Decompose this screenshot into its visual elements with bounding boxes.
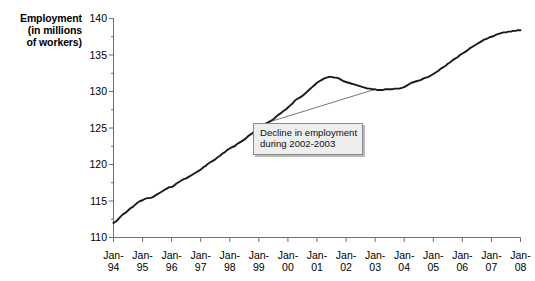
annotation-leader-line: [256, 89, 375, 126]
y-axis-major-ticks: [109, 19, 114, 238]
annotation-callout: Decline in employment during 2002-2003: [253, 123, 363, 155]
x-axis-major-ticks: [114, 238, 521, 243]
